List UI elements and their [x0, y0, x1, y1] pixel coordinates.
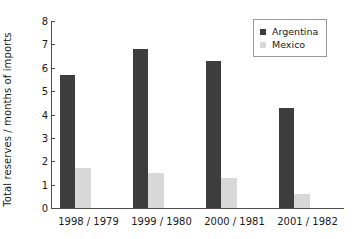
- legend-swatch-icon: [260, 29, 266, 35]
- bar-mexico: [221, 178, 237, 208]
- bar-argentina: [133, 49, 149, 208]
- y-axis-tick-label: 8: [42, 17, 52, 27]
- y-axis-label: Total reserves / months of imports: [0, 0, 14, 239]
- x-axis-category-label: 1999 / 1980: [125, 208, 198, 227]
- bar-mexico: [148, 173, 164, 208]
- legend-label: Mexico: [272, 40, 305, 50]
- y-axis-tick-label: 4: [42, 110, 52, 120]
- bar-argentina: [60, 75, 76, 208]
- x-axis-category-label: 1998 / 1979: [52, 208, 125, 227]
- y-axis-tick-label: 1: [42, 180, 52, 190]
- y-axis-tick-label: 6: [42, 63, 52, 73]
- y-axis-tick-label: 7: [42, 40, 52, 50]
- bar-argentina: [279, 108, 295, 209]
- bar-group: [52, 21, 125, 208]
- x-axis-category-label: 2001 / 1982: [271, 208, 344, 227]
- legend-swatch-icon: [260, 42, 266, 48]
- y-axis-tick-label: 2: [42, 157, 52, 167]
- legend-item-mexico[interactable]: Mexico: [260, 38, 318, 51]
- bar-mexico: [75, 168, 91, 208]
- bar-chart-figure: Total reserves / months of imports 01234…: [0, 0, 356, 239]
- bar-group: [125, 21, 198, 208]
- y-axis-tick-label: 5: [42, 87, 52, 97]
- legend-item-argentina[interactable]: Argentina: [260, 25, 318, 38]
- chart-legend: ArgentinaMexico: [253, 19, 327, 57]
- y-axis-tick-label: 3: [42, 133, 52, 143]
- bar-argentina: [206, 61, 222, 208]
- y-axis-tick-label: 0: [42, 204, 52, 214]
- bar-mexico: [294, 194, 310, 208]
- legend-label: Argentina: [272, 27, 318, 37]
- x-axis-category-label: 2000 / 1981: [198, 208, 271, 227]
